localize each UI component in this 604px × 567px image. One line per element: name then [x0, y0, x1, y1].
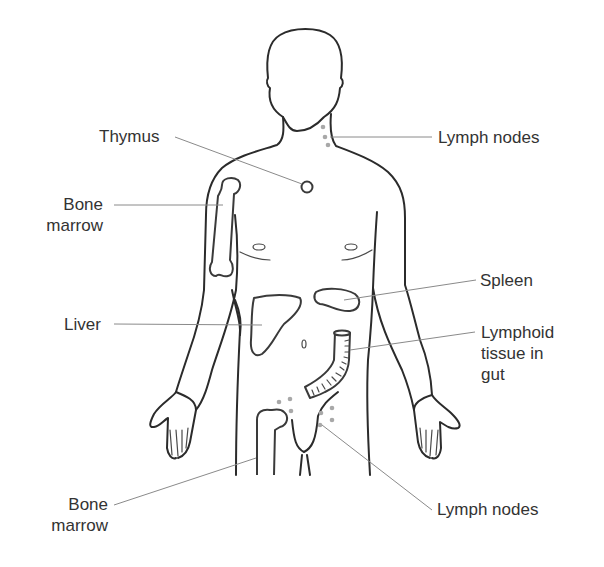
lymph-node-dot: [330, 418, 335, 423]
right-inner-arm: [373, 212, 414, 410]
label-bone-marrow-leg-line2: marrow: [38, 515, 108, 536]
femur-bone-marrow: [257, 410, 287, 476]
right-torso-outline: [331, 114, 460, 459]
leader-thymus: [175, 137, 302, 184]
lymph-node-dot: [321, 125, 326, 130]
left-pectoral: [240, 252, 270, 260]
right-flank: [367, 288, 373, 475]
label-liver: Liver: [64, 314, 101, 335]
right-nipple: [345, 244, 357, 250]
label-lymph-nodes-groin: Lymph nodes: [437, 499, 538, 520]
lymph-node-dot: [277, 400, 282, 405]
lymph-nodes-neck: [321, 125, 331, 148]
lymph-node-dot: [319, 411, 324, 416]
label-lymphoid-gut: Lymphoid tissue in gut: [481, 322, 554, 385]
label-bone-marrow-leg-line1: Bone: [38, 494, 108, 515]
leg-inner-right: [307, 455, 310, 475]
lymph-node-dot: [330, 406, 335, 411]
lymph-node-dot: [318, 423, 323, 428]
leg-inner-left: [300, 455, 302, 475]
label-spleen: Spleen: [480, 270, 533, 291]
label-lymphoid-gut-line3: gut: [481, 364, 554, 385]
right-pectoral: [342, 250, 372, 260]
thymus-organ: [302, 182, 313, 193]
gut-lymphoid-tissue: [305, 331, 350, 398]
label-bone-marrow-leg: Bone marrow: [38, 494, 108, 536]
leader-spleen: [344, 280, 476, 300]
lymph-node-dot: [326, 143, 331, 148]
organs: [210, 178, 359, 475]
left-nipple: [253, 244, 265, 250]
navel: [302, 340, 306, 348]
label-lymphoid-gut-line1: Lymphoid: [481, 322, 554, 343]
lymph-node-dot: [323, 135, 328, 140]
left-flank: [232, 290, 240, 475]
right-hand: [414, 395, 432, 458]
leader-lymph-nodes-groin: [322, 425, 432, 510]
label-lymphoid-gut-line2: tissue in: [481, 343, 554, 364]
leader-lymphoid-gut: [350, 332, 475, 350]
body-outline: [150, 29, 459, 475]
label-bone-marrow-arm-line2: marrow: [40, 215, 103, 236]
label-thymus: Thymus: [99, 126, 159, 147]
label-bone-marrow-arm: Bone marrow: [40, 194, 103, 236]
label-bone-marrow-arm-line1: Bone: [40, 194, 103, 215]
lymph-node-dot: [288, 397, 293, 402]
leader-bone-marrow-leg: [114, 458, 256, 505]
gut-opening: [334, 331, 350, 336]
label-lymph-nodes-neck: Lymph nodes: [438, 127, 539, 148]
lymph-node-dot: [289, 409, 294, 414]
spleen-organ: [314, 289, 359, 311]
left-torso-outline: [150, 117, 283, 458]
